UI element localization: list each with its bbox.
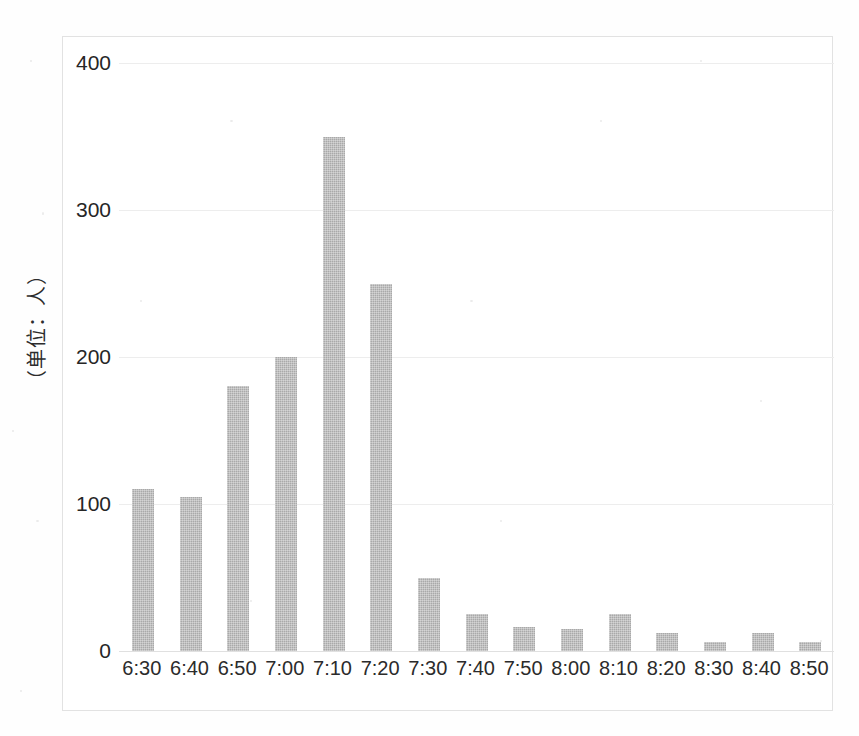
- bar-6:40: [180, 497, 202, 651]
- y-axis-tick-200: 200: [55, 345, 111, 369]
- bar-7:10: [323, 137, 345, 652]
- x-axis-tick-8:40: 8:40: [742, 657, 781, 680]
- scan-speckle: [30, 60, 32, 62]
- scan-speckle: [42, 212, 44, 215]
- x-axis-tick-8:00: 8:00: [551, 657, 590, 680]
- plot-frame: 0100200300400: [62, 36, 833, 711]
- y-axis-tick-0: 0: [55, 639, 111, 663]
- x-axis-tick-row: 6:306:406:507:007:107:207:307:407:508:00…: [118, 657, 833, 691]
- bar-7:30: [418, 578, 440, 652]
- scan-speckle: [12, 430, 14, 432]
- bar-7:20: [370, 284, 392, 652]
- y-axis-tick-300: 300: [55, 198, 111, 222]
- bar-8:40: [752, 633, 774, 651]
- bar-7:40: [466, 614, 488, 651]
- x-axis-tick-8:30: 8:30: [694, 657, 733, 680]
- y-axis-tick-400: 400: [55, 51, 111, 75]
- x-axis-tick-7:30: 7:30: [408, 657, 447, 680]
- x-axis-tick-7:40: 7:40: [456, 657, 495, 680]
- x-axis-tick-7:20: 7:20: [361, 657, 400, 680]
- y-axis-label: （单位：人）: [21, 227, 51, 427]
- scan-speckle: [20, 690, 22, 692]
- bar-6:50: [227, 386, 249, 651]
- bar-7:50: [513, 627, 535, 651]
- x-axis-tick-7:00: 7:00: [265, 657, 304, 680]
- x-axis-tick-6:30: 6:30: [122, 657, 161, 680]
- bar-6:30: [132, 489, 154, 651]
- bar-8:10: [609, 614, 631, 651]
- x-axis-tick-6:40: 6:40: [170, 657, 209, 680]
- scan-speckle: [36, 520, 39, 522]
- bar-8:30: [704, 642, 726, 651]
- bar-8:50: [799, 642, 821, 651]
- bar-8:20: [656, 633, 678, 651]
- bar-chart-figure: （单位：人） 0100200300400 6:306:406:507:007:1…: [0, 0, 859, 736]
- plot-grid-area: [119, 37, 834, 712]
- bar-8:00: [561, 629, 583, 651]
- x-axis-tick-6:50: 6:50: [218, 657, 257, 680]
- x-axis-tick-7:50: 7:50: [504, 657, 543, 680]
- x-axis-tick-8:50: 8:50: [790, 657, 829, 680]
- y-axis-tick-column: 0100200300400: [63, 37, 119, 712]
- bar-7:00: [275, 357, 297, 651]
- bar-series: [119, 37, 834, 712]
- x-axis-tick-8:20: 8:20: [647, 657, 686, 680]
- x-axis-tick-8:10: 8:10: [599, 657, 638, 680]
- x-axis-tick-7:10: 7:10: [313, 657, 352, 680]
- y-axis-tick-100: 100: [55, 492, 111, 516]
